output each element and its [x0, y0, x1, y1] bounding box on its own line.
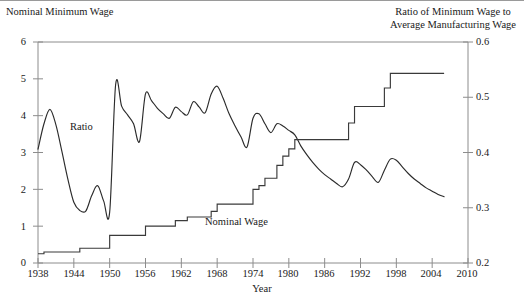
- ratio-series-line: [38, 80, 444, 220]
- chart-figure: Nominal Minimum Wage Ratio of Minimum Wa…: [0, 0, 524, 300]
- axes: [38, 42, 468, 263]
- nominal-wage-series-line: [38, 73, 444, 253]
- plot-canvas: [0, 0, 524, 300]
